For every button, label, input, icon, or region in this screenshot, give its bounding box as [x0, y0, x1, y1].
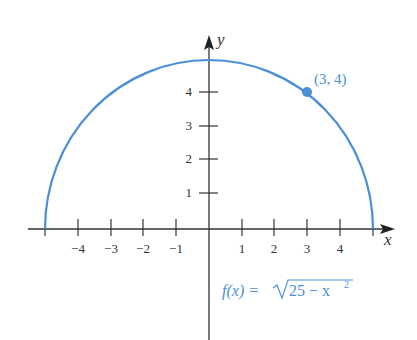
x-tick-label: 3 — [304, 241, 311, 256]
x-tick-label: −2 — [136, 241, 150, 256]
x-tick-label: −1 — [169, 241, 183, 256]
x-tick-label: 2 — [271, 241, 278, 256]
y-tick-label: 2 — [186, 151, 193, 166]
x-tick-label: 1 — [239, 241, 246, 256]
point-label: (3, 4) — [314, 71, 347, 88]
x-axis-label: x — [383, 230, 392, 249]
x-tick-label: −4 — [71, 241, 85, 256]
function-prefix: f(x) = — [222, 282, 259, 300]
point-marker — [302, 87, 312, 97]
y-axis-label: y — [215, 30, 225, 49]
y-tick-label: 3 — [186, 118, 193, 133]
function-label: f(x) = 25 − x 2 — [222, 279, 353, 300]
function-radicand: 25 − x — [289, 282, 330, 299]
y-tick-label: 1 — [186, 185, 193, 200]
y-tick-label: 4 — [186, 84, 193, 99]
function-exponent: 2 — [344, 279, 349, 290]
semicircle-chart: −4 −3 −2 −1 1 2 3 4 1 2 3 4 x y (3, 4) f… — [0, 0, 417, 340]
x-tick-label: 4 — [337, 241, 344, 256]
x-tick-label: −3 — [104, 241, 118, 256]
